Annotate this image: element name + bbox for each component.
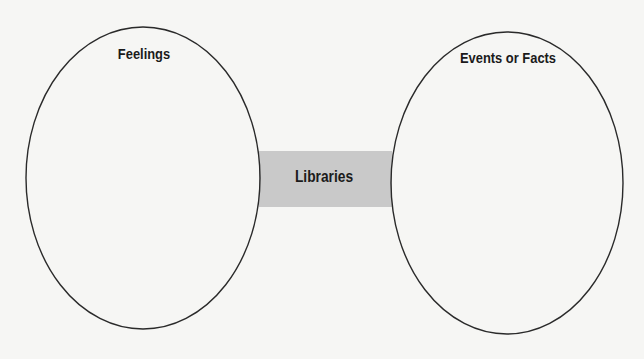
left-ellipse-label: Feelings (101, 45, 187, 62)
right-ellipse (391, 32, 623, 334)
right-ellipse-label: Events or Facts (456, 49, 561, 66)
left-ellipse (26, 27, 260, 329)
diagram-page: Feelings Events or Facts Libraries (0, 0, 644, 359)
connector-label: Libraries (281, 168, 367, 186)
